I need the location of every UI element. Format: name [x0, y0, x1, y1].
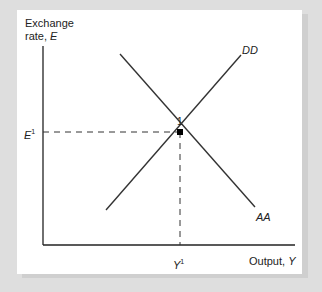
y1-sup: 1: [180, 258, 184, 265]
e1-tick-label: E1: [24, 125, 35, 142]
aa-curve-label: AA: [256, 211, 271, 224]
y-axis-var: E: [50, 30, 57, 42]
dd-curve-label: DD: [242, 44, 258, 57]
e1-sup: 1: [31, 128, 35, 135]
equilibrium-point: [177, 129, 183, 135]
x-axis-label-text: Output,: [249, 255, 288, 267]
diagram-canvas: [0, 0, 322, 292]
y1-tick-label: Y1: [173, 255, 184, 272]
y-axis-label-line1: Exchange: [25, 17, 74, 29]
x-axis-label: Output, Y: [249, 255, 295, 268]
y-axis-label: Exchange rate, E: [25, 17, 74, 43]
equilibrium-label: 1: [177, 115, 183, 128]
dd-curve: [106, 55, 241, 210]
y-axis-label-line2: rate,: [25, 30, 50, 42]
aa-curve: [120, 54, 255, 207]
x-axis-var: Y: [288, 255, 295, 267]
